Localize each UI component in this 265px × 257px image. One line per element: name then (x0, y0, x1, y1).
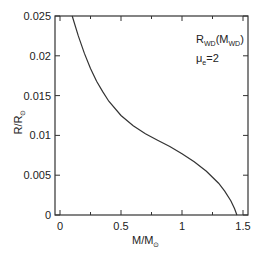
plot-frame (55, 16, 248, 215)
y-tick-label: 0.015 (23, 90, 51, 102)
x-tick-label: 0.5 (113, 220, 128, 232)
y-tick-label: 0.01 (30, 129, 51, 141)
x-tick-label: 1.5 (235, 220, 250, 232)
y-tick-label: 0.025 (23, 10, 51, 22)
axis-ticks (55, 16, 248, 215)
y-tick-label: 0 (45, 209, 51, 221)
y-axis-label: R/R⊙ (12, 110, 26, 135)
x-axis-label: M/M⊙ (132, 234, 159, 248)
x-tick-label: 1 (179, 220, 185, 232)
y-tick-label: 0.02 (30, 50, 51, 62)
annotation-rwd: RWD(MWD) (196, 33, 244, 47)
x-tick-label: 0 (57, 220, 63, 232)
annotation-mue: μe=2 (196, 52, 219, 66)
chart: 00.511.500.0050.010.0150.020.025 RWD(MWD… (0, 0, 265, 257)
y-tick-label: 0.005 (23, 169, 51, 181)
